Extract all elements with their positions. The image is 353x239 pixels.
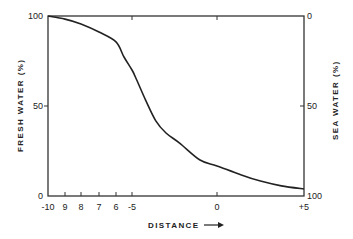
x-tick-label: -10	[41, 202, 54, 212]
x-tick-label: 7	[96, 202, 101, 212]
fresh-water-line	[48, 16, 304, 189]
y-axis-left-title: FRESH WATER (%)	[16, 59, 25, 152]
x-axis-arrow-icon	[204, 222, 224, 228]
x-tick-label: +5	[299, 202, 309, 212]
y-left-tick-label: 0	[38, 191, 43, 201]
x-axis-title: DISTANCE	[148, 221, 200, 230]
x-tick-label: 0	[214, 202, 219, 212]
y-left-tick-label: 50	[33, 101, 43, 111]
x-tick-label: 9	[62, 202, 67, 212]
chart: -109876-50+5050100050100 DISTANCE FRESH …	[0, 0, 353, 239]
plot-frame	[48, 16, 304, 196]
x-tick-label: 6	[113, 202, 118, 212]
x-tick-label: -5	[128, 202, 136, 212]
axis-ticks: -109876-50+5050100050100	[28, 11, 322, 212]
data-curve	[48, 16, 304, 189]
y-right-tick-label: 50	[307, 101, 317, 111]
y-axis-right-title: SEA WATER (%)	[331, 60, 340, 140]
y-right-tick-label: 100	[307, 191, 322, 201]
y-right-tick-label: 0	[307, 11, 312, 21]
y-left-tick-label: 100	[28, 11, 43, 21]
x-tick-label: 8	[78, 202, 83, 212]
